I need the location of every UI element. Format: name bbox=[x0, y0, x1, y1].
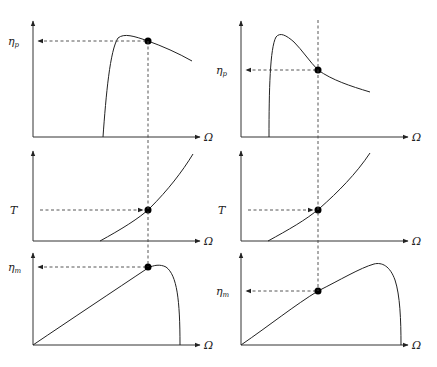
y-axis-label: T bbox=[218, 204, 227, 217]
panel-right-bottom-motor-efficiency: ηm Ω bbox=[216, 253, 421, 352]
panel-left-middle-thrust: T Ω bbox=[10, 151, 213, 248]
thrust-curve bbox=[268, 153, 370, 241]
motor-efficiency-curve bbox=[241, 264, 401, 345]
x-axis-label: Ω bbox=[411, 235, 421, 248]
panel-right-middle-thrust: T Ω bbox=[218, 151, 421, 248]
propeller-efficiency-curve bbox=[103, 35, 192, 137]
y-axis-label: ηp bbox=[216, 64, 228, 78]
efficiency-matching-diagram: ηp Ω T Ω ηm Ω ηp Ω bbox=[0, 0, 437, 367]
x-axis-label: Ω bbox=[203, 339, 213, 352]
x-axis-label: Ω bbox=[203, 131, 213, 144]
y-axis-label: ηm bbox=[216, 285, 230, 299]
panel-right-top-propeller-efficiency: ηp Ω bbox=[216, 21, 421, 144]
x-axis-label: Ω bbox=[411, 131, 421, 144]
motor-efficiency-curve bbox=[33, 265, 180, 345]
propeller-efficiency-curve bbox=[269, 35, 370, 137]
x-axis-label: Ω bbox=[411, 339, 421, 352]
x-axis-label: Ω bbox=[203, 235, 213, 248]
panel-left-top-propeller-efficiency: ηp Ω bbox=[8, 21, 213, 144]
thrust-curve bbox=[100, 154, 193, 241]
y-axis-label: T bbox=[10, 204, 19, 217]
y-axis-label: ηm bbox=[8, 261, 22, 275]
y-axis-label: ηp bbox=[8, 35, 20, 49]
panel-left-bottom-motor-efficiency: ηm Ω bbox=[8, 253, 213, 352]
